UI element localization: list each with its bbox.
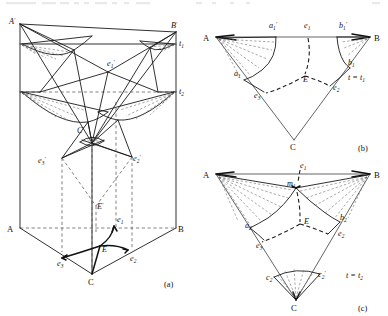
label-e1: e1: [117, 215, 124, 225]
label-b-b1-prime: b1′: [339, 21, 348, 31]
label-c-m1: m1: [287, 179, 296, 189]
wavefront-t2-hatch-left: [22, 93, 84, 120]
panel-c-labels: A B C e1 m1 E a2 b2 e2 e3 c2 c2′ t = t2 …: [203, 161, 380, 313]
label-b-b1: b1: [348, 58, 355, 68]
label-c-e2: e2: [338, 229, 345, 239]
fan-b-A: [219, 39, 274, 77]
fan-c-B: [300, 177, 367, 219]
panel-c: A B C e1 m1 E a2 b2 e2 e3 c2 c2′ t = t2 …: [203, 161, 380, 313]
scan-noise: [6, 2, 380, 4]
base-wavefront: [62, 226, 128, 274]
fan-c-C: [278, 268, 313, 298]
label-b-C: C: [290, 142, 296, 152]
label-B-prime: B′: [171, 21, 178, 30]
label-c-A: A: [203, 170, 210, 180]
panel-b: A B C a1′ e1 b1′ a1 b1 E e2 e3 t = t1 (b…: [203, 21, 380, 153]
label-c-C: C: [291, 303, 297, 313]
label-b-e3: e3: [254, 91, 261, 101]
label-A-prime: A′: [8, 17, 16, 26]
label-c-c2: c2: [266, 273, 273, 283]
wavefront-c-C: [274, 268, 320, 300]
fan-b-B: [341, 39, 367, 56]
triangle-b: [216, 34, 370, 140]
wavefront-t2-hatch-right: [120, 93, 174, 119]
label-b-E: E: [302, 75, 308, 84]
panel-a: A′ B′ t1 t2 e1′ C′ e3′ e2′ E′ A B e1 E e…: [7, 17, 184, 289]
label-b-A: A: [203, 33, 210, 43]
caption-a: (a): [164, 280, 174, 289]
label-E-prime: E′: [96, 202, 104, 211]
label-B: B: [178, 224, 184, 234]
label-e2-prime: e2′: [133, 154, 141, 164]
label-b-e1: e1: [304, 21, 311, 31]
label-c-E: E: [303, 217, 309, 226]
geometric-figure-svg: A′ B′ t1 t2 e1′ C′ e3′ e2′ E′ A B e1 E e…: [0, 0, 388, 316]
label-c-c2-prime: c2′: [318, 270, 326, 280]
wavefront-c-A: [217, 175, 296, 228]
triangle-c: [216, 171, 370, 300]
figure-root: A′ B′ t1 t2 e1′ C′ e3′ e2′ E′ A B e1 E e…: [0, 0, 388, 316]
label-b-time: t = t1: [348, 73, 365, 83]
label-c-e3: e3: [256, 241, 263, 251]
label-t2: t2: [179, 87, 184, 97]
label-c-a2: a2: [245, 221, 252, 231]
wavefront-c-B: [296, 175, 368, 222]
caption-c: (c): [358, 304, 368, 313]
caption-b: (b): [358, 144, 368, 153]
label-c-e1: e1: [300, 161, 307, 171]
label-A: A: [7, 224, 14, 234]
label-C-prime: C′: [77, 126, 84, 135]
label-b-a1-prime: a1′: [269, 21, 278, 31]
wavefront-c-interior: [250, 170, 340, 242]
label-e2: e2: [130, 254, 137, 264]
label-b-a1: a1: [234, 69, 241, 79]
label-t1: t1: [179, 39, 184, 49]
wavefront-b-A: [217, 37, 276, 80]
prism-lower-funnel: [62, 120, 132, 158]
label-e3: e3: [57, 259, 64, 269]
label-c-B: B: [374, 170, 380, 180]
label-b-e2: e2: [333, 83, 340, 93]
label-c-time: t = t2: [346, 271, 363, 281]
label-b-B: B: [374, 33, 380, 43]
label-E: E: [101, 245, 107, 254]
label-C: C: [88, 277, 94, 287]
label-e3-prime: e3′: [38, 156, 46, 166]
fan-c-A: [219, 177, 292, 225]
label-e1-prime: e1′: [107, 59, 115, 69]
